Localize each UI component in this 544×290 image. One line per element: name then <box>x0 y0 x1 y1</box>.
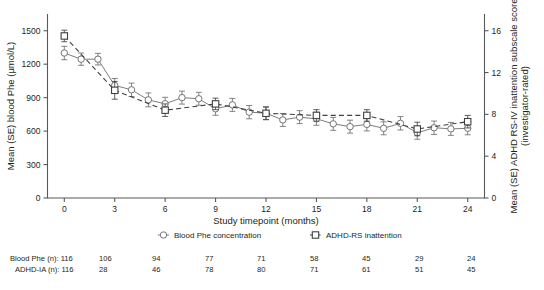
cell-value: 77 <box>205 254 213 263</box>
y-ticklabel-right: 12 <box>492 68 502 78</box>
cell-value: 71 <box>310 265 318 274</box>
x-ticklabel: 18 <box>362 204 372 214</box>
x-ticklabel: 15 <box>312 204 322 214</box>
table-row: Blood Phe (n): 116 106 94 77 71 58 45 29… <box>0 254 544 265</box>
row-label-adhd-ia: ADHD-IA (n): 116 <box>15 265 74 274</box>
x-ticklabel: 21 <box>413 204 423 214</box>
y-ticklabel-left: 600 <box>26 126 40 136</box>
x-ticklabel: 12 <box>261 204 271 214</box>
cell-value: 45 <box>467 265 475 274</box>
y-ticklabel-left: 900 <box>26 93 40 103</box>
y-ticklabel-right: 8 <box>492 109 497 119</box>
legend-marker-circle <box>160 232 166 238</box>
data-point-circle[interactable] <box>397 120 403 126</box>
data-point-square[interactable] <box>414 126 420 132</box>
legend-marker-square <box>312 232 318 238</box>
x-axis-label: Study timepoint (months) <box>213 215 319 226</box>
x-ticklabel: 3 <box>112 204 117 214</box>
data-point-circle[interactable] <box>431 125 437 131</box>
x-ticklabel: 24 <box>463 204 473 214</box>
data-point-square[interactable] <box>364 112 370 118</box>
data-point-circle[interactable] <box>364 121 370 127</box>
cell-value: 78 <box>205 265 213 274</box>
y-axis-label-right-sub: (investigator-rated) <box>519 66 530 146</box>
cell-value: 61 <box>362 265 370 274</box>
y-ticklabel-left: 1200 <box>22 59 41 69</box>
data-point-square[interactable] <box>313 112 319 118</box>
data-point-circle[interactable] <box>95 56 101 62</box>
plot-frame <box>48 14 485 198</box>
y-ticklabel-right: 4 <box>492 151 497 161</box>
y-ticklabel-left: 300 <box>26 160 40 170</box>
cell-value: 29 <box>415 254 423 263</box>
data-point-square[interactable] <box>162 107 168 113</box>
cell-value: 24 <box>467 254 475 263</box>
data-point-circle[interactable] <box>347 123 353 129</box>
cell-value: 45 <box>362 254 370 263</box>
cell-value: 46 <box>152 265 160 274</box>
data-point-circle[interactable] <box>128 87 134 93</box>
data-point-square[interactable] <box>61 33 67 39</box>
data-point-square[interactable] <box>464 118 470 124</box>
data-point-square[interactable] <box>112 87 118 93</box>
y-ticklabel-right: 0 <box>492 193 497 203</box>
data-point-square[interactable] <box>263 110 269 116</box>
data-point-circle[interactable] <box>330 121 336 127</box>
y-axis-label-right: Mean (SE) ADHD RS-IV inattention subscal… <box>508 0 519 213</box>
cell-value: 106 <box>99 254 112 263</box>
data-point-circle[interactable] <box>196 96 202 102</box>
data-point-circle[interactable] <box>380 125 386 131</box>
cell-value: 94 <box>152 254 160 263</box>
chart-figure: 030060090012001500048121603691215182124S… <box>0 0 544 290</box>
chart-canvas: 030060090012001500048121603691215182124S… <box>0 0 544 254</box>
data-point-circle[interactable] <box>61 50 67 56</box>
y-axis-label-left: Mean (SE) blood Phe (µmol/L) <box>5 42 16 171</box>
sample-size-table: Blood Phe (n): 116 106 94 77 71 58 45 29… <box>0 254 544 276</box>
x-ticklabel: 0 <box>62 204 67 214</box>
series-line-blood-phe <box>64 53 467 133</box>
cell-value: 58 <box>310 254 318 263</box>
legend-label-adhd: ADHD-RS inattention <box>326 231 402 240</box>
x-ticklabel: 9 <box>213 204 218 214</box>
legend-label-blood-phe: Blood Phe concentration <box>174 231 261 240</box>
row-label-blood-phe: Blood Phe (n): 116 <box>10 254 73 263</box>
table-row: ADHD-IA (n): 116 28 46 78 80 71 61 51 45 <box>0 265 544 276</box>
cell-value: 80 <box>257 265 265 274</box>
data-point-circle[interactable] <box>179 94 185 100</box>
y-ticklabel-right: 16 <box>492 26 502 36</box>
data-point-circle[interactable] <box>448 126 454 132</box>
cell-value: 28 <box>99 265 107 274</box>
cell-value: 51 <box>415 265 423 274</box>
x-ticklabel: 6 <box>163 204 168 214</box>
y-ticklabel-left: 1500 <box>22 26 41 36</box>
data-point-circle[interactable] <box>280 117 286 123</box>
cell-value: 71 <box>257 254 265 263</box>
data-point-square[interactable] <box>212 101 218 107</box>
y-ticklabel-left: 0 <box>36 193 41 203</box>
